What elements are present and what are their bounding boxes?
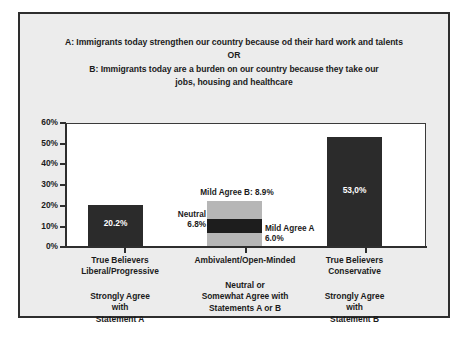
- bar-segment-mild-agree-a[interactable]: [207, 233, 262, 246]
- category-sub-3: Strongly Agree with Statement B: [302, 291, 407, 325]
- statement-a: A: Immigrants today strengthen our count…: [20, 36, 448, 49]
- y-label-20: 20%: [28, 200, 58, 210]
- category-label-2: Ambivalent/Open-Minded: [175, 255, 315, 266]
- category-3-sub2: with: [346, 302, 363, 312]
- y-tick-20: [60, 205, 66, 207]
- category-3-line2: Conservative: [328, 266, 381, 276]
- y-label-30: 30%: [28, 179, 58, 189]
- category-sub-2: Neutral or Somewhat Agree with Statement…: [170, 280, 320, 314]
- category-2-line1: Ambivalent/Open-Minded: [195, 255, 296, 265]
- category-label-1: True Believers Liberal/Progressive: [60, 255, 180, 278]
- bar-3-value-label: 53,0%: [327, 185, 382, 195]
- y-tick-50: [60, 143, 66, 145]
- mild-agree-a-callout-line1: Mild Agree A: [265, 224, 314, 233]
- bar-1-value-label: 20.2%: [88, 218, 143, 228]
- chart-figure: A: Immigrants today strengthen our count…: [18, 12, 450, 318]
- mild-agree-a-callout-line2: 6.0%: [265, 234, 284, 243]
- category-3-line1: True Believers: [326, 255, 383, 265]
- y-label-40: 40%: [28, 158, 58, 168]
- mild-agree-b-callout: Mild Agree B: 8.9%: [197, 188, 277, 198]
- question-statement: A: Immigrants today strengthen our count…: [20, 36, 448, 89]
- category-3-sub1: Strongly Agree: [325, 291, 385, 301]
- y-tick-30: [60, 184, 66, 186]
- y-tick-60: [60, 122, 66, 124]
- category-1-line2: Liberal/Progressive: [81, 266, 159, 276]
- category-1-sub1: Strongly Agree: [90, 291, 150, 301]
- statement-separator: OR: [20, 49, 448, 62]
- category-3-sub3: Statement B: [330, 314, 379, 324]
- x-tick-3: [365, 247, 367, 253]
- y-label-60: 60%: [28, 117, 58, 127]
- y-label-50: 50%: [28, 138, 58, 148]
- statement-b-line1: B: Immigrants today are a burden on our …: [20, 63, 448, 76]
- category-1-sub3: Statement A: [96, 314, 145, 324]
- category-sub-1: Strongly Agree with Statement A: [60, 291, 180, 325]
- x-tick-1: [124, 247, 126, 253]
- y-label-10: 10%: [28, 221, 58, 231]
- category-label-3: True Believers Conservative: [302, 255, 407, 278]
- bar-segment-neutral[interactable]: [207, 219, 262, 233]
- category-2-sub2: Somewhat Agree with: [202, 291, 289, 301]
- y-tick-10: [60, 226, 66, 228]
- y-label-0: 0%: [28, 241, 58, 251]
- mild-agree-a-callout: Mild Agree A 6.0%: [265, 224, 335, 244]
- neutral-callout-line1: Neutral: [178, 210, 206, 219]
- category-2-sub1: Neutral or: [225, 280, 265, 290]
- neutral-callout: Neutral 6.8%: [160, 210, 206, 230]
- neutral-callout-line2: 6.8%: [187, 220, 206, 229]
- x-tick-2: [245, 247, 247, 253]
- category-1-sub2: with: [112, 302, 129, 312]
- statement-b-line2: jobs, housing and healthcare: [20, 76, 448, 89]
- bar-segment-mild-agree-b[interactable]: [207, 201, 262, 219]
- category-2-sub3: Statements A or B: [209, 303, 281, 313]
- y-tick-40: [60, 163, 66, 165]
- category-1-line1: True Believers: [91, 255, 148, 265]
